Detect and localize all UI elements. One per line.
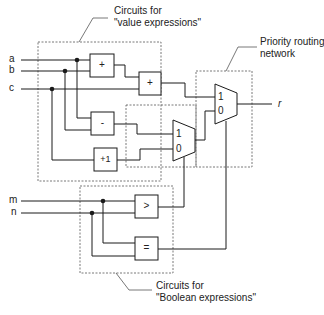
value-expressions-callout-line1: Circuits for — [114, 5, 201, 17]
priority-routing-callout: Priority routing network — [260, 36, 324, 60]
input-a-label: a — [9, 54, 15, 64]
priority-routing-callout-line1: Priority routing — [260, 36, 324, 48]
outer-mux — [215, 84, 237, 124]
subtract-label: - — [91, 118, 114, 128]
inner-mux-in1-label: 1 — [176, 129, 182, 139]
value-expressions-callout-line2: "value expressions" — [114, 17, 201, 29]
inner-mux — [173, 120, 195, 161]
outer-mux-in0-label: 0 — [218, 106, 224, 116]
priority-routing-callout-line2: network — [260, 48, 324, 60]
value-expressions-callout: Circuits for "value expressions" — [114, 5, 201, 29]
boolean-expressions-region — [80, 186, 173, 273]
boolean-expressions-callout-line1: Circuits for — [156, 280, 256, 292]
outer-mux-in1-label: 1 — [218, 92, 224, 102]
adder-2-label: + — [139, 78, 161, 88]
boolean-expressions-callout-line2: "Boolean expressions" — [156, 292, 256, 304]
increment-label: +1 — [94, 154, 117, 164]
adder-1-label: + — [90, 60, 114, 70]
greater-than-label: > — [135, 201, 158, 211]
input-m-label: m — [9, 195, 17, 205]
input-b-label: b — [9, 65, 15, 75]
boolean-expressions-callout: Circuits for "Boolean expressions" — [156, 280, 256, 304]
input-c-label: c — [9, 83, 14, 93]
input-n-label: n — [11, 207, 17, 217]
equal-label: = — [135, 243, 158, 253]
output-r-label: r — [278, 99, 281, 109]
inner-mux-in0-label: 0 — [176, 144, 182, 154]
